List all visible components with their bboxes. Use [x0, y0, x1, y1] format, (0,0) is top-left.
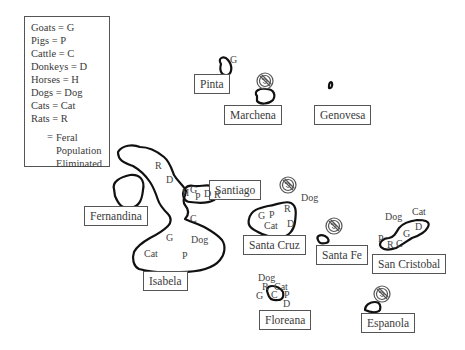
legend-item-donkeys: Donkeys = D	[31, 61, 87, 73]
san-cristobal-animal-rats: R	[387, 240, 394, 250]
marchena-island-outline	[256, 89, 275, 104]
santa-cruz-animal-pigs: P	[269, 210, 275, 220]
marchena-prohibition-icon	[257, 73, 273, 89]
santa-cruz-animal-cats: Cat	[264, 221, 278, 231]
legend-item-goats: Goats = G	[31, 22, 74, 34]
isabela-animal-rats: R	[155, 161, 162, 171]
island-label-san-cristobal: San Cristobal	[372, 254, 446, 274]
espanola-prohibition-icon	[374, 286, 390, 302]
legend-note-line2: Population	[56, 144, 102, 157]
island-label-genovesa: Genovesa	[314, 105, 371, 125]
island-label-isabela: Isabela	[143, 271, 188, 291]
san-cristobal-animal-goats: G	[403, 229, 410, 239]
santa-fe-prohibition-icon	[326, 218, 342, 234]
santa-cruz-animal-rats: R	[284, 204, 291, 214]
isabela-animal-goats: G	[166, 233, 173, 243]
isabela-animal-cats: Cat	[144, 249, 158, 259]
san-cristobal-animal-cattle: C	[396, 239, 403, 249]
legend-item-pigs: Pigs = P	[31, 35, 66, 47]
legend-item-cattle: Cattle = C	[31, 48, 74, 60]
santa-cruz-animal-donkeys: D	[287, 219, 294, 229]
san-cristobal-animal-cats: Cat	[412, 207, 426, 217]
island-label-fernandina: Fernandina	[84, 206, 148, 226]
legend: Goats = G Pigs = P Cattle = C Donkeys = …	[24, 16, 110, 167]
floreana-animal-cattle: C	[271, 290, 278, 300]
fernandina-island-outline	[114, 175, 144, 208]
island-label-marchena: Marchena	[224, 105, 282, 125]
san-cristobal-animal-dogs: Dog	[385, 212, 402, 222]
santiago-animal-rats: R	[214, 190, 221, 200]
san-cristobal-animal-pigs: P	[378, 234, 384, 244]
pinta-animal-goats: G	[230, 55, 237, 65]
santa-fe-island-outline	[317, 235, 328, 243]
isabela-animal-horses: H	[182, 188, 189, 198]
san-cristobal-animal-donkeys: D	[415, 222, 422, 232]
isabela-animal-pigs: P	[182, 251, 188, 261]
santiago-animal-pigs: P	[195, 192, 201, 202]
legend-item-cats: Cats = Cat	[31, 100, 75, 112]
genovesa-island-outline	[329, 82, 332, 88]
legend-note-line3: Eliminated	[56, 157, 102, 170]
espanola-island-outline	[365, 302, 380, 312]
island-label-santa-cruz: Santa Cruz	[243, 235, 306, 255]
island-label-espanola: Espanola	[361, 313, 415, 333]
isabela-animal-dogs: Dog	[191, 235, 208, 245]
legend-symbol-equals: =	[47, 131, 53, 142]
legend-item-horses: Horses = H	[31, 74, 79, 86]
floreana-animal-donkeys: D	[283, 299, 290, 309]
island-label-pinta: Pinta	[194, 74, 230, 94]
legend-note-line1: Feral	[56, 131, 78, 144]
island-label-floreana: Floreana	[259, 310, 311, 330]
isabela-animal-donkeys: D	[166, 175, 173, 185]
santiago-animal-donkeys: D	[204, 189, 211, 199]
island-label-santa-fe: Santa Fe	[316, 245, 368, 265]
floreana-animal-goats: G	[256, 291, 263, 301]
santa-cruz-animal-dogs: Dog	[301, 193, 318, 203]
legend-item-dogs: Dogs = Dog	[31, 87, 82, 99]
santa-cruz-prohibition-icon	[280, 177, 296, 193]
legend-item-rats: Rats = R	[31, 113, 68, 125]
isabela-animal-cattle: C	[190, 214, 197, 224]
